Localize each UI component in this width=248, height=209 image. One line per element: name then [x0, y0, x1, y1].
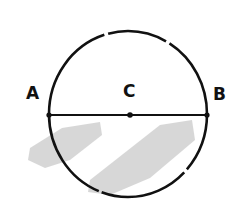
- point-B: [204, 112, 209, 117]
- shading-right: [88, 120, 195, 195]
- circle-diagram: [0, 0, 248, 209]
- point-C: [127, 112, 133, 118]
- point-A: [46, 112, 51, 117]
- label-B: B: [213, 86, 226, 103]
- shading-left: [28, 122, 102, 168]
- label-C: C: [123, 83, 135, 100]
- label-A: A: [26, 85, 39, 102]
